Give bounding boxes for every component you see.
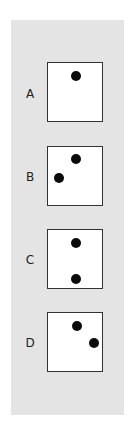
- option-b-label: B: [22, 170, 38, 184]
- dot-icon: [54, 173, 64, 183]
- option-d-label: D: [22, 336, 38, 350]
- option-d-box[interactable]: [47, 312, 103, 372]
- dot-icon: [72, 321, 82, 331]
- option-c-box[interactable]: [47, 229, 103, 289]
- option-a-box[interactable]: [47, 62, 103, 122]
- option-b-box[interactable]: [47, 146, 103, 206]
- dot-icon: [71, 71, 81, 81]
- option-c-label: C: [22, 253, 38, 267]
- dot-icon: [71, 238, 81, 248]
- dot-icon: [71, 274, 81, 284]
- dot-icon: [89, 338, 99, 348]
- option-a-label: A: [22, 87, 38, 101]
- dot-icon: [71, 154, 81, 164]
